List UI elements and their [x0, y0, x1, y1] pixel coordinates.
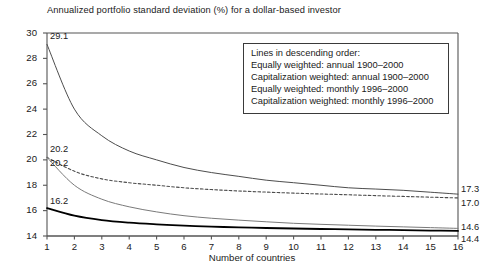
series-end-label: 14.6: [461, 222, 479, 232]
x-axis-tick-label: 11: [310, 241, 332, 252]
chart-figure: Annualized portfolio standard deviation …: [0, 0, 504, 273]
y-axis-tick-label: 26: [11, 77, 37, 88]
x-axis-title: Number of countries: [0, 252, 504, 263]
legend-box: Lines in descending order:Equally weight…: [243, 43, 449, 114]
plot-area: [0, 0, 504, 273]
series-end-label: 14.4: [461, 234, 479, 244]
x-axis-tick-label: 6: [173, 241, 195, 252]
x-axis-tick-label: 9: [255, 241, 277, 252]
x-axis-tick-label: 13: [365, 241, 387, 252]
x-axis-tick-label: 15: [420, 241, 442, 252]
x-axis-tick-label: 12: [337, 241, 359, 252]
x-axis-tick-label: 3: [91, 241, 113, 252]
y-axis-tick-label: 14: [11, 230, 37, 241]
series-line: [47, 157, 458, 228]
legend-item: Equally weighted: monthly 1996–2000: [251, 84, 441, 96]
series-start-label: 29.1: [50, 31, 68, 41]
x-axis-tick-label: 10: [283, 241, 305, 252]
legend-title: Lines in descending order:: [251, 48, 441, 60]
y-axis-tick-label: 18: [11, 179, 37, 190]
x-axis-tick-label: 1: [36, 241, 58, 252]
x-axis-tick-label: 14: [392, 241, 414, 252]
series-line: [47, 157, 458, 198]
legend-item: Capitalization weighted: annual 1900–200…: [251, 72, 441, 84]
legend-item: Capitalization weighted: monthly 1996–20…: [251, 96, 441, 108]
y-axis-tick-label: 24: [11, 103, 37, 114]
series-end-label: 17.0: [461, 198, 479, 208]
x-axis-tick-label: 7: [200, 241, 222, 252]
y-axis-tick-label: 20: [11, 153, 37, 164]
series-end-label: 17.3: [461, 184, 479, 194]
series-line: [47, 208, 458, 231]
y-axis-tick-label: 16: [11, 204, 37, 215]
legend-item: Equally weighted: annual 1900–2000: [251, 60, 441, 72]
x-axis-tick-label: 5: [146, 241, 168, 252]
series-start-label: 20.2: [50, 158, 68, 168]
series-start-label: 20.2: [50, 144, 68, 154]
y-axis-tick-label: 28: [11, 52, 37, 63]
x-axis-tick-label: 4: [118, 241, 140, 252]
x-axis-tick-label: 2: [63, 241, 85, 252]
series-start-label: 16.2: [50, 196, 68, 206]
y-axis-tick-label: 22: [11, 128, 37, 139]
x-axis-tick-label: 8: [228, 241, 250, 252]
y-axis-tick-label: 30: [11, 27, 37, 38]
